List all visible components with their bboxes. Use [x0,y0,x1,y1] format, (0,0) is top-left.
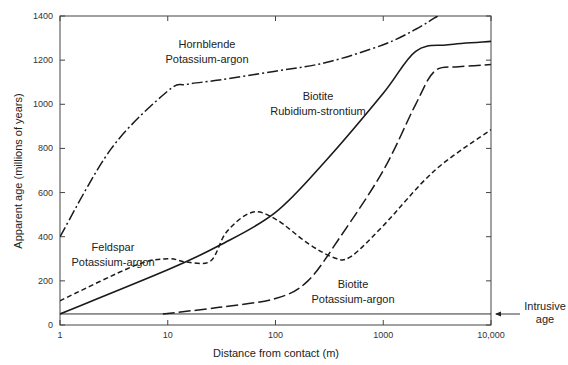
y-tick-label: 800 [38,143,53,153]
series-label: Potassium-argon [165,53,248,65]
chart: 110100100010,000020040060080010001200140… [0,0,568,365]
x-axis-title: Distance from contact (m) [213,347,339,359]
y-tick-label: 1200 [33,55,53,65]
series-label: Biotite [338,278,369,290]
axes: 110100100010,000020040060080010001200140… [33,11,505,340]
y-tick-label: 1000 [33,99,53,109]
series-label: Potassium-argon [71,256,154,268]
y-tick-label: 1400 [33,11,53,21]
y-tick-label: 400 [38,232,53,242]
intrusive-age-label-2: age [536,313,554,325]
x-tick-label: 1000 [373,330,393,340]
x-tick-label: 100 [268,330,283,340]
y-tick-label: 0 [48,320,53,330]
x-tick-label: 10 [163,330,173,340]
series-feldspar-potassium-argon [60,130,491,301]
x-tick-label: 10,000 [477,330,505,340]
x-tick-label: 1 [57,330,62,340]
series-hornblende-potassium-argon [60,16,438,237]
series-label: Rubidium-strontium [270,105,365,117]
series-label: Hornblende [179,38,236,50]
y-tick-label: 200 [38,276,53,286]
intrusive-age-label-1: Intrusive [524,300,566,312]
plot-frame [60,16,491,325]
intrusive-age-annotation: Intrusive age [495,300,566,325]
series-label: Biotite [303,90,334,102]
series-label: Feldspar [92,241,135,253]
y-axis-title: Apparent age (millions of years) [12,93,24,248]
arrow-head-icon [495,312,501,317]
series-label: Potassium-argon [311,293,394,305]
curves [60,16,491,314]
y-tick-label: 600 [38,188,53,198]
